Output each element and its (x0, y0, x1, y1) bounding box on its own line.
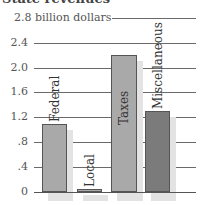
chart-title: State revenues (2, 0, 110, 6)
y-tick-label: 1.6 (11, 86, 29, 97)
bar-label: Local (84, 154, 96, 187)
y-tick-label: 2.4 (11, 37, 29, 48)
bar-federal (42, 124, 67, 192)
bar-label: Miscellaneous (152, 22, 164, 109)
y-tick-label: 0 (21, 186, 28, 197)
y-tick-label: 2.8 billion dollars (14, 12, 111, 23)
y-tick-label: 1.2 (11, 111, 29, 122)
bar-label: Taxes (118, 91, 130, 125)
y-tick-label: 2.0 (11, 62, 29, 73)
y-tick-label: .4 (18, 161, 29, 172)
gridline (112, 18, 196, 19)
gridline (34, 43, 196, 44)
bar-miscellaneous (145, 111, 170, 192)
x-axis-baseline (34, 192, 196, 193)
bar-shadow (83, 195, 108, 201)
bar-label: Federal (49, 75, 61, 121)
y-tick-label: .8 (18, 136, 29, 147)
